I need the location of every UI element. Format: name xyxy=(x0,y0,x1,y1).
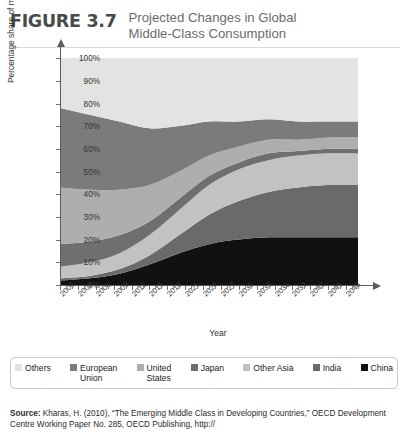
figure-header: FIGURE 3.7 Projected Changes in Global M… xyxy=(0,0,410,41)
plot-box xyxy=(60,58,358,285)
y-axis-tick-mark xyxy=(56,194,60,195)
y-axis-tick-label: 100% xyxy=(79,54,100,63)
x-axis-minor-tick-mark xyxy=(269,286,270,289)
x-axis-minor-tick-mark xyxy=(84,286,85,289)
x-axis-minor-tick-mark xyxy=(281,286,282,289)
source-label: Source: xyxy=(10,409,40,418)
x-axis-minor-tick-mark xyxy=(286,286,287,289)
x-axis-minor-tick-mark xyxy=(322,286,323,289)
legend-item-others[interactable]: Others xyxy=(15,363,51,373)
x-axis-minor-tick-mark xyxy=(352,286,353,289)
y-axis-tick-mark xyxy=(56,217,60,218)
x-axis-minor-tick-mark xyxy=(155,286,156,289)
x-axis-minor-tick-mark xyxy=(161,286,162,289)
x-axis-minor-tick-mark xyxy=(90,286,91,289)
y-axis-tick-label: 80% xyxy=(84,99,100,108)
x-axis-minor-tick-mark xyxy=(179,286,180,289)
y-axis-title: Percentage share of middle-class consump… xyxy=(6,0,16,96)
legend-swatch-icon xyxy=(313,364,320,371)
legend-item-japan[interactable]: Japan xyxy=(191,363,224,373)
header-divider xyxy=(10,47,400,48)
x-axis-minor-tick-mark xyxy=(245,286,246,289)
x-axis-minor-tick-mark xyxy=(173,286,174,289)
legend-item-united-states[interactable]: United States xyxy=(137,363,172,383)
chart-area: Percentage share of middle-class consump… xyxy=(4,50,402,340)
x-axis-minor-tick-mark xyxy=(298,286,299,289)
legend-label: United States xyxy=(147,363,172,383)
legend-swatch-icon xyxy=(243,364,250,371)
y-axis-tick-mark xyxy=(56,104,60,105)
x-axis-minor-tick-mark xyxy=(102,286,103,289)
x-axis-minor-tick-mark xyxy=(334,286,335,289)
figure-page: FIGURE 3.7 Projected Changes in Global M… xyxy=(0,0,410,432)
legend-swatch-icon xyxy=(191,364,198,371)
legend-label: Japan xyxy=(201,363,224,373)
y-axis-tick-label: 60% xyxy=(84,144,100,153)
y-axis-arrow xyxy=(57,39,65,47)
y-axis-tick-label: 70% xyxy=(84,122,100,131)
x-axis-minor-tick-mark xyxy=(227,286,228,289)
y-axis-tick-label: 50% xyxy=(84,167,100,176)
x-axis-minor-tick-mark xyxy=(191,286,192,289)
legend-swatch-icon xyxy=(15,364,22,371)
legend-swatch-icon xyxy=(137,364,144,371)
y-axis-tick-mark xyxy=(56,172,60,173)
x-axis-minor-tick-mark xyxy=(108,286,109,289)
legend-item-india[interactable]: India xyxy=(313,363,342,373)
stacked-area-plot xyxy=(60,58,358,285)
y-axis-tick-label: 10% xyxy=(84,258,100,267)
chart-legend: OthersEuropean UnionUnited StatesJapanOt… xyxy=(10,357,398,389)
source-note: Source: Kharas, H. (2010), “The Emerging… xyxy=(10,408,406,430)
y-axis-tick-mark xyxy=(56,126,60,127)
page-title: Projected Changes in Global Middle-Class… xyxy=(129,10,297,41)
x-axis-minor-tick-mark xyxy=(251,286,252,289)
figure-number: FIGURE 3.7 xyxy=(10,10,117,31)
area-chart-svg xyxy=(60,58,358,285)
x-axis-minor-tick-mark xyxy=(120,286,121,289)
y-axis-tick-mark xyxy=(56,81,60,82)
legend-swatch-icon xyxy=(70,364,77,371)
legend-swatch-icon xyxy=(361,364,368,371)
x-axis-minor-tick-mark xyxy=(316,286,317,289)
x-axis-minor-tick-mark xyxy=(340,286,341,289)
figure-title-line-1: Projected Changes in Global xyxy=(129,10,297,26)
legend-label: Others xyxy=(25,363,51,373)
x-axis-minor-tick-mark xyxy=(137,286,138,289)
x-axis-title: Year xyxy=(60,328,376,338)
y-axis-tick-label: 20% xyxy=(84,235,100,244)
x-axis-minor-tick-mark xyxy=(126,286,127,289)
y-axis-tick-label: 40% xyxy=(84,190,100,199)
x-axis-arrow xyxy=(373,282,381,290)
y-axis-tick-mark xyxy=(56,262,60,263)
x-axis-minor-tick-mark xyxy=(263,286,264,289)
y-axis-tick-mark xyxy=(56,240,60,241)
figure-title-line-2: Middle-Class Consumption xyxy=(129,26,297,42)
x-axis-minor-tick-mark xyxy=(358,286,359,289)
legend-label: India xyxy=(323,363,342,373)
x-axis-minor-tick-mark xyxy=(209,286,210,289)
x-axis-minor-tick-mark xyxy=(215,286,216,289)
x-axis-minor-tick-mark xyxy=(197,286,198,289)
y-axis-tick-label: 30% xyxy=(84,213,100,222)
legend-label: Other Asia xyxy=(253,363,293,373)
source-text: Kharas, H. (2010), “The Emerging Middle … xyxy=(10,409,386,429)
x-axis-minor-tick-mark xyxy=(72,286,73,289)
y-axis-line xyxy=(60,44,61,285)
x-axis-minor-tick-mark xyxy=(233,286,234,289)
y-axis-tick-label: 90% xyxy=(84,76,100,85)
x-axis-minor-tick-mark xyxy=(304,286,305,289)
y-axis-tick-mark xyxy=(56,149,60,150)
legend-item-other-asia[interactable]: Other Asia xyxy=(243,363,293,373)
x-axis-minor-tick-mark xyxy=(66,286,67,289)
area-series-others xyxy=(60,58,358,129)
y-axis-tick-mark xyxy=(56,58,60,59)
x-axis-minor-tick-mark xyxy=(143,286,144,289)
legend-label: China xyxy=(371,363,393,373)
legend-label: European Union xyxy=(80,363,117,383)
legend-item-european-union[interactable]: European Union xyxy=(70,363,117,383)
legend-item-china[interactable]: China xyxy=(361,363,393,373)
